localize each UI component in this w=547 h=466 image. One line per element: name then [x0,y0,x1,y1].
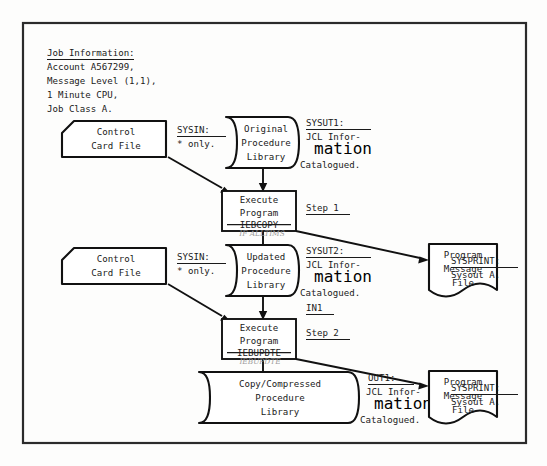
sysut1-line-2: mation [314,139,372,158]
connector-card2-to-step2 [168,284,222,316]
sysut2-line-3: Catalogued. [300,288,360,298]
control-card-2-line-2: Card File [91,268,140,278]
arrowhead-step1-to-message1 [418,257,429,264]
step1-label: Step 1 [306,203,339,213]
control-card-1-line-1: Control [97,127,135,137]
step2-handwritten-note: IEBUPDTE [238,357,281,366]
node-step1-execute-program: Execute Program IEBCOPY IF ALLTIMS [222,191,296,238]
diagram-canvas: Job Information: Account A567299, Messag… [0,0,547,466]
sysut1-line-3: Catalogued. [300,160,360,170]
sysut2-heading: SYSUT2: [306,246,344,256]
annotation-step2: Step 2 [306,328,350,340]
annotation-step1: Step 1 [306,203,350,215]
job-information-line-3: 1 Minute CPU, [47,90,118,100]
copy-library-line-3: Library [261,407,300,417]
annotation-sysut1: SYSUT1: JCL Infor- mation Catalogued. [300,118,372,170]
original-library-line-1: Original [244,124,288,134]
sysprint-1-heading: SYSPRINT: [451,256,500,266]
step2-label: Step 2 [306,328,339,338]
sysut1-heading: SYSUT1: [306,118,344,128]
copy-library-line-1: Copy/Compressed [239,379,321,389]
connector-card1-to-step1 [168,157,222,188]
job-information-line-2: Message Level (1,1), [47,76,157,86]
node-copy-compressed-library: Copy/Compressed Procedure Library [199,372,359,423]
sysprint-1-line-1: Sysout A. [451,270,500,280]
updated-library-line-2: Procedure [241,266,290,276]
annotation-out1: OUT1: JCL Infor- mation Catalogued. [360,373,432,425]
control-card-1-line-2: Card File [91,141,140,151]
sysin-1-line-1: * only. [177,139,215,149]
sysin-2-heading: SYSIN: [177,252,210,262]
copy-library-line-2: Procedure [255,393,304,403]
annotation-sysin-2: SYSIN: * only. [177,252,226,276]
sysin-1-heading: SYSIN: [177,125,210,135]
node-original-procedure-library: Original Procedure Library [226,117,299,168]
updated-library-line-1: Updated [247,252,285,262]
step1-line-1: Execute [240,195,278,205]
step2-line-1: Execute [240,323,278,333]
job-information-block: Job Information: Account A567299, Messag… [47,48,157,114]
step1-handwritten-note: IF ALLTIMS [238,229,284,238]
sysprint-2-line-1: Sysout A. [451,397,500,407]
jcl-flow-diagram: Job Information: Account A567299, Messag… [0,0,547,466]
original-library-line-3: Library [247,152,286,162]
step2-line-2: Program [240,336,279,346]
annotation-in1: IN1 [306,303,334,315]
node-step2-execute-program: Execute Program IEBUPDTE IEBUPDTE [222,319,296,366]
control-card-2-line-1: Control [97,254,135,264]
sysprint-2-heading: SYSPRINT: [451,383,500,393]
sysin-2-line-1: * only. [177,266,215,276]
annotation-sysin-1: SYSIN: * only. [177,125,226,149]
out1-line-2: mation [374,394,432,413]
updated-library-line-3: Library [247,280,286,290]
node-control-card-file-2: Control Card File [62,248,166,284]
out1-heading: OUT1: [368,373,395,383]
original-library-line-2: Procedure [241,138,290,148]
job-information-heading: Job Information: [47,48,135,58]
node-control-card-file-1: Control Card File [62,121,166,157]
job-information-line-4: Job Class A. [47,104,113,114]
sysut2-line-2: mation [314,267,372,286]
job-information-line-1: Account A567299, [47,62,135,72]
out1-line-3: Catalogued. [360,415,420,425]
annotation-sysut2: SYSUT2: JCL Infor- mation Catalogued. [300,246,372,298]
annotation-sysprint-2: SYSPRINT: Sysout A. [451,383,518,407]
node-updated-procedure-library: Updated Procedure Library [226,245,299,296]
step1-line-2: Program [240,208,279,218]
annotation-sysprint-1: SYSPRINT: Sysout A. [451,256,518,280]
in1-label: IN1 [306,303,322,313]
